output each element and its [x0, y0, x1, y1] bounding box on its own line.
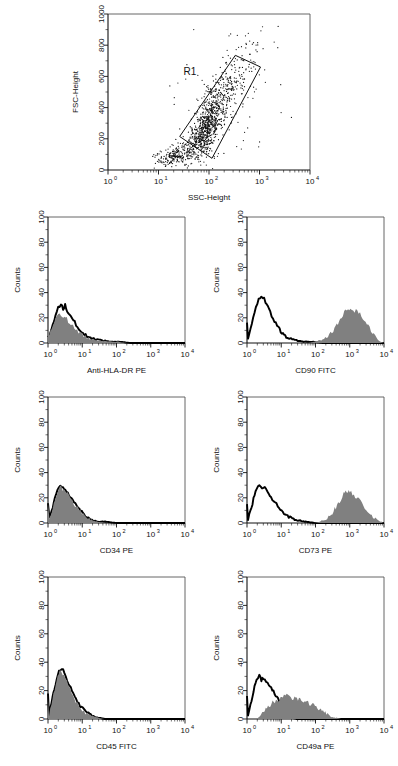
x-axis-title: CD73 PE	[299, 546, 332, 555]
histogram-panel-cd49a: 020406080100100101102103104CD49a PECount…	[199, 567, 398, 763]
tick-label-base: 10	[345, 726, 354, 735]
tick-label-base: 10	[277, 726, 286, 735]
tick-label-base: 10	[243, 726, 252, 735]
y-tick-label: 100	[37, 570, 46, 584]
histogram-panel-cd34: 020406080100100101102103104CD34 PECounts	[0, 387, 199, 567]
axis-tick-label: 100	[243, 348, 257, 359]
tick-label-exponent: 3	[265, 175, 268, 181]
y-axis-title: Counts	[212, 635, 221, 660]
tick-label-base: 10	[181, 350, 190, 359]
x-axis-title: CD45 FITC	[96, 742, 137, 751]
histogram-panel-cd73: 020406080100100101102103104CD73 PECounts	[199, 387, 398, 567]
tick-label-base: 10	[380, 350, 389, 359]
y-tick-label: 80	[37, 600, 46, 609]
axis-tick-label: 101	[277, 724, 291, 735]
tick-label-base: 10	[78, 726, 87, 735]
tick-label-exponent: 1	[88, 348, 91, 354]
histogram-svg-cd73: 020406080100100101102103104CD73 PECounts	[199, 387, 398, 567]
axis-tick-label: 100	[44, 528, 58, 539]
histogram-svg-cd34: 020406080100100101102103104CD34 PECounts	[0, 387, 199, 567]
x-axis-title: Anti-HLA-DR PE	[87, 366, 146, 375]
y-tick-label: 600	[97, 69, 106, 83]
y-tick-label: 40	[236, 657, 245, 666]
axis-tick-label: 102	[311, 528, 325, 539]
tick-label-base: 10	[243, 530, 252, 539]
plot-frame	[247, 397, 384, 523]
tick-label-base: 10	[146, 530, 155, 539]
y-tick-label: 100	[37, 210, 46, 224]
flow-cytometry-figure: 02004006008001000100101102103104R1SSC-He…	[0, 0, 398, 766]
y-axis-title: Counts	[212, 447, 221, 472]
tick-label-base: 10	[243, 350, 252, 359]
y-axis-title: Counts	[13, 447, 22, 472]
y-axis-title: Counts	[13, 267, 22, 292]
y-tick-label: 40	[37, 288, 46, 297]
tick-label-exponent: 3	[356, 724, 359, 730]
y-tick-label: 20	[236, 686, 245, 695]
y-tick-label: 80	[236, 600, 245, 609]
tick-label-exponent: 4	[390, 724, 393, 730]
axis-tick-label: 103	[345, 528, 359, 539]
tick-label-exponent: 0	[253, 348, 256, 354]
y-axis-title: Counts	[212, 267, 221, 292]
axis-tick-label: 101	[78, 724, 92, 735]
tick-label-base: 10	[311, 350, 320, 359]
y-tick-label: 0	[97, 167, 106, 172]
axis-tick-label: 104	[380, 348, 394, 359]
tick-label-base: 10	[78, 350, 87, 359]
tick-label-exponent: 2	[321, 724, 324, 730]
axis-tick-label: 100	[104, 175, 118, 186]
scatter-plot-panel: 02004006008001000100101102103104R1SSC-He…	[60, 2, 320, 207]
tick-label-base: 10	[112, 350, 121, 359]
axis-tick-label: 103	[345, 724, 359, 735]
axis-tick-label: 102	[112, 724, 126, 735]
axis-tick-label: 102	[311, 724, 325, 735]
axis-tick-label: 102	[112, 348, 126, 359]
scatter-plot-svg: 02004006008001000100101102103104R1SSC-He…	[60, 2, 320, 207]
tick-label-exponent: 4	[191, 348, 194, 354]
tick-label-exponent: 3	[356, 348, 359, 354]
axis-tick-label: 101	[154, 175, 168, 186]
tick-label-exponent: 2	[122, 528, 125, 534]
y-tick-label: 20	[37, 686, 46, 695]
tick-label-exponent: 3	[157, 528, 160, 534]
y-tick-label: 40	[37, 657, 46, 666]
tick-label-exponent: 0	[114, 175, 117, 181]
tick-label-base: 10	[345, 350, 354, 359]
tick-label-base: 10	[146, 350, 155, 359]
histogram-sample-fill	[247, 694, 384, 719]
axis-tick-label: 102	[205, 175, 219, 186]
tick-label-base: 10	[345, 530, 354, 539]
y-tick-label: 40	[37, 468, 46, 477]
axis-tick-label: 100	[243, 528, 257, 539]
axis-tick-label: 102	[112, 528, 126, 539]
tick-label-base: 10	[311, 726, 320, 735]
y-tick-label: 0	[236, 340, 245, 345]
y-tick-label: 20	[37, 313, 46, 322]
y-tick-label: 800	[97, 38, 106, 52]
y-tick-label: 0	[236, 520, 245, 525]
histogram-svg-hla-dr: 020406080100100101102103104Anti-HLA-DR P…	[0, 207, 199, 387]
histogram-svg-cd45: 020406080100100101102103104CD45 FITCCoun…	[0, 567, 199, 763]
y-tick-label: 80	[236, 417, 245, 426]
histogram-sample-fill	[247, 490, 384, 523]
scatter-points	[152, 26, 292, 169]
axis-tick-label: 103	[255, 175, 269, 186]
x-axis-title: CD34 PE	[100, 546, 133, 555]
histogram-sample-fill	[247, 309, 384, 343]
axis-tick-label: 104	[380, 724, 394, 735]
plot-frame	[247, 577, 384, 719]
tick-label-base: 10	[255, 177, 264, 186]
tick-label-exponent: 4	[390, 528, 393, 534]
tick-label-base: 10	[380, 726, 389, 735]
y-tick-label: 100	[236, 570, 245, 584]
y-tick-label: 0	[37, 520, 46, 525]
y-tick-label: 200	[97, 132, 106, 146]
y-tick-label: 60	[37, 629, 46, 638]
axis-tick-label: 102	[311, 348, 325, 359]
tick-label-base: 10	[44, 530, 53, 539]
y-tick-label: 80	[236, 237, 245, 246]
tick-label-base: 10	[146, 726, 155, 735]
tick-label-base: 10	[104, 177, 113, 186]
histogram-sample-fill	[48, 313, 185, 343]
